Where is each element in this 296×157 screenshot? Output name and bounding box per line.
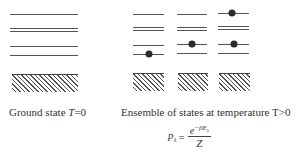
numerator: e−βEλ (188, 123, 211, 136)
energy-level (10, 46, 78, 47)
fraction: e−βEλ Z (188, 123, 211, 150)
ensemble-caption: Ensemble of states at temperature T>0 (121, 106, 290, 118)
energy-level (218, 26, 249, 27)
probability-symbol: pλ (168, 129, 177, 144)
energy-level (177, 30, 207, 31)
energy-level (177, 53, 207, 54)
energy-level (218, 53, 249, 54)
energy-level (218, 29, 249, 30)
denominator: Z (196, 137, 202, 150)
energy-level (10, 28, 78, 29)
energy-level (177, 14, 207, 15)
electron-dot (146, 51, 153, 58)
electron-dot (229, 10, 236, 17)
electron-dot (189, 41, 196, 48)
hatched-ground-block (219, 73, 250, 91)
energy-level (133, 14, 164, 15)
equals-sign: = (179, 131, 185, 143)
boltzmann-probability-formula: pλ = e−βEλ Z (168, 123, 211, 150)
caption-text: Ground state (9, 106, 68, 118)
energy-level (10, 55, 78, 56)
energy-level (133, 45, 164, 46)
ground-state-caption: Ground state T=0 (9, 106, 86, 118)
electron-dot (231, 41, 238, 48)
hatched-ground-block (178, 73, 208, 91)
energy-level (133, 30, 164, 31)
energy-level (133, 27, 164, 28)
hatched-ground-block (12, 74, 78, 92)
hatched-ground-block (133, 73, 164, 91)
energy-level (177, 27, 207, 28)
caption-value: =0 (74, 106, 86, 118)
energy-level (10, 31, 78, 32)
energy-level (10, 14, 78, 15)
